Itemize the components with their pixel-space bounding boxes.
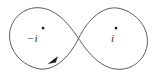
- point-marker-plus-i: [115, 27, 117, 29]
- figure-background: [0, 0, 162, 77]
- lemniscate-diagram: [0, 0, 162, 77]
- figure-container: −i i: [0, 0, 162, 77]
- label-plus-i: i: [111, 33, 114, 44]
- label-minus-i: −i: [27, 33, 37, 44]
- point-marker-minus-i: [42, 27, 44, 29]
